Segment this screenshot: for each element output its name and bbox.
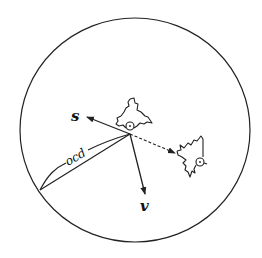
ocd-vector [40, 134, 130, 190]
s-label: s [71, 107, 80, 125]
bounding-circle [20, 18, 250, 242]
diagram-canvas: ocd s v [0, 0, 262, 258]
v-label: v [140, 197, 149, 215]
ocd-label: ocd [63, 146, 89, 169]
v-arrow [130, 134, 145, 194]
bird-upper-icon [116, 98, 152, 130]
dashed-arrow [130, 134, 175, 153]
bird-right-icon [177, 136, 207, 177]
